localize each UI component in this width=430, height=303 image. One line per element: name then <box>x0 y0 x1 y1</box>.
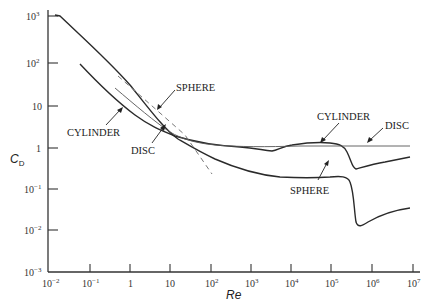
y-tick-label: 10−1 <box>24 183 42 195</box>
y-tick-label: 102 <box>26 57 40 69</box>
x-tick-label: 1 <box>128 278 133 289</box>
x-tick-label: 106 <box>366 277 380 289</box>
x-tick-label: 104 <box>285 277 299 289</box>
annotation-sphere-top: SPHERE <box>157 82 215 110</box>
x-tick-label: 103 <box>245 277 259 289</box>
x-axis-label: Re <box>226 288 242 302</box>
y-tick-label: 103 <box>26 10 40 22</box>
svg-text:SPHERE: SPHERE <box>290 185 329 196</box>
x-tick-label: 10−2 <box>42 277 60 289</box>
y-tick-label: 10−3 <box>24 266 42 278</box>
svg-text:CYLINDER: CYLINDER <box>67 127 120 138</box>
x-tick-label: 105 <box>325 277 339 289</box>
drag-coefficient-chart: 103 102 10 1 10−1 10−2 10−3 10−2 10−1 1 … <box>0 0 430 303</box>
svg-text:DISC: DISC <box>131 145 155 156</box>
y-ticks <box>48 16 58 230</box>
x-tick-label: 10−1 <box>82 277 100 289</box>
y-tick-labels: 103 102 10 1 10−1 10−2 10−3 <box>24 10 42 278</box>
y-axis-label: CD <box>10 152 25 168</box>
annotation-disc-left: DISC <box>131 124 166 156</box>
annotation-cylinder-left: CYLINDER <box>67 107 123 138</box>
y-tick-label: 10 <box>32 101 42 112</box>
svg-text:CYLINDER: CYLINDER <box>317 111 370 122</box>
y-tick-label: 1 <box>36 143 41 154</box>
svg-text:DISC: DISC <box>385 120 409 131</box>
x-ticks <box>90 264 413 272</box>
x-tick-label: 107 <box>407 277 421 289</box>
annotation-cylinder-right: CYLINDER <box>317 111 370 143</box>
y-tick-label: 10−2 <box>24 224 42 236</box>
annotation-disc-right: DISC <box>367 120 409 143</box>
x-tick-label: 10 <box>165 278 175 289</box>
x-tick-label: 102 <box>205 277 219 289</box>
svg-text:SPHERE: SPHERE <box>176 82 215 93</box>
